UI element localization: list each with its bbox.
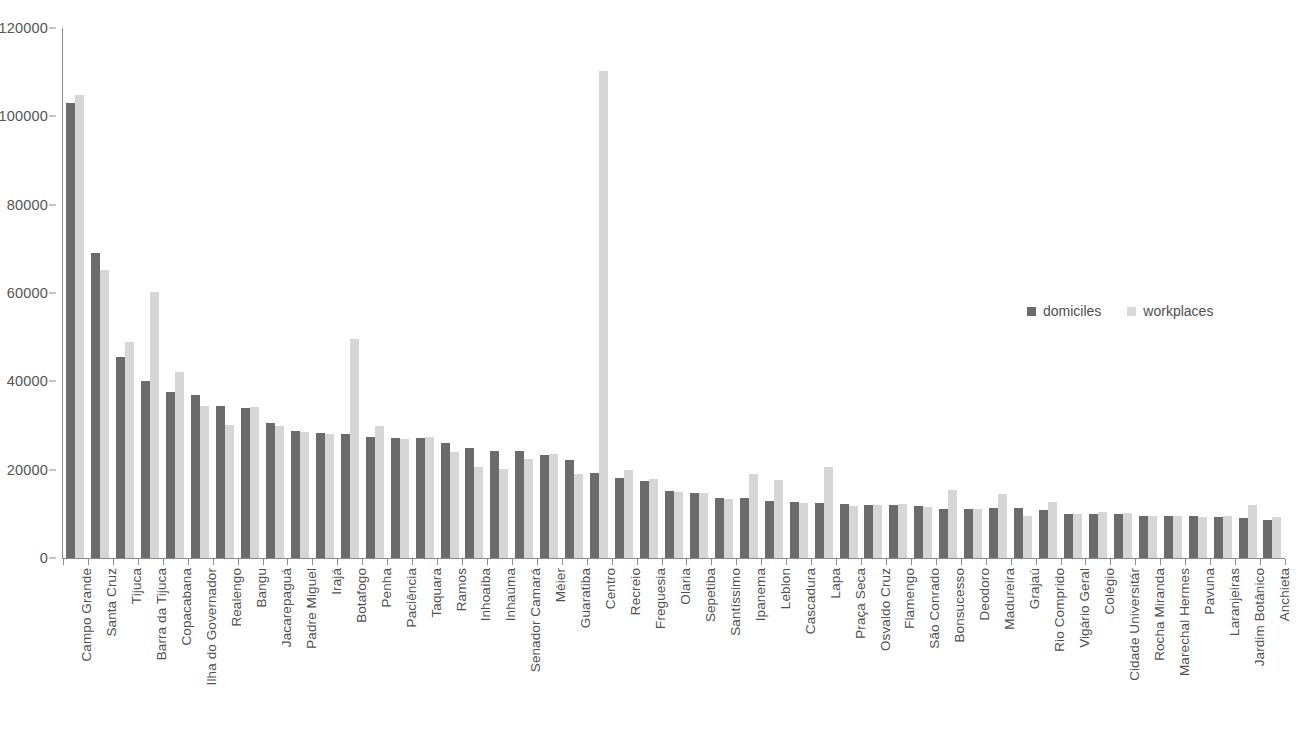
x-axis-label: Cascadura (804, 568, 818, 634)
x-axis-tick-mark (612, 559, 613, 565)
x-axis-label: Recreio (629, 568, 643, 615)
bar-group (686, 28, 711, 558)
bar-workplaces (599, 71, 608, 558)
x-axis-tick-mark (487, 559, 488, 565)
y-axis-tick-mark (49, 293, 56, 294)
x-axis-label: Grajaú (1028, 568, 1042, 609)
plot-area (63, 28, 1285, 558)
x-axis-label: Deodoro (978, 568, 992, 621)
bar-group (986, 28, 1011, 558)
bar-group (387, 28, 412, 558)
bar-group (63, 28, 88, 558)
y-axis-tick-mark (49, 204, 56, 205)
bar-workplaces (450, 452, 459, 558)
x-axis-label: Anchieta (1278, 568, 1292, 621)
x-axis-tick-mark (88, 559, 89, 565)
bar-workplaces (75, 95, 84, 558)
legend-item-workplaces[interactable]: workplaces (1127, 303, 1213, 319)
y-axis-tick-mark (49, 381, 56, 382)
bar-group (287, 28, 312, 558)
bar-domiciles (540, 455, 549, 558)
bar-group (437, 28, 462, 558)
bar-domiciles (465, 448, 474, 558)
x-axis-label: Olaria (679, 568, 693, 605)
bar-domiciles (1089, 514, 1098, 558)
x-axis-ticks (63, 559, 1285, 566)
bar-group (188, 28, 213, 558)
x-axis-label: Ramos (455, 568, 469, 611)
x-axis-label: Tijuca (130, 568, 144, 604)
bar-domiciles (864, 505, 873, 558)
x-axis-label: Madureira (1003, 568, 1017, 630)
bar-group (537, 28, 562, 558)
bar-group (312, 28, 337, 558)
y-axis-tick-mark (49, 469, 56, 470)
bar-workplaces (1248, 505, 1257, 558)
x-axis-tick-mark (1061, 559, 1062, 565)
legend-item-domiciles[interactable]: domiciles (1027, 303, 1101, 319)
x-axis-label: Osvaldo Cruz (879, 568, 893, 651)
bar-group (961, 28, 986, 558)
y-axis: 020000400006000080000100000120000 (0, 0, 62, 737)
x-axis-label: Praça Seca (854, 568, 868, 639)
bar-domiciles (690, 493, 699, 558)
bar-domiciles (715, 498, 724, 559)
bar-workplaces (873, 505, 882, 558)
x-axis-tick-mark (387, 559, 388, 565)
x-axis-tick-mark (936, 559, 937, 565)
bar-workplaces (524, 459, 533, 558)
bar-chart: 020000400006000080000100000120000 Campo … (0, 0, 1300, 737)
bar-workplaces (824, 467, 833, 558)
bar-workplaces (425, 437, 434, 558)
x-axis-label: Penha (380, 568, 394, 608)
x-axis-label: Ipanema (754, 568, 768, 621)
x-axis-label: Senador Camará (529, 568, 543, 672)
y-axis-tick-label: 20000 (7, 462, 48, 478)
x-axis-label: Bangu (255, 568, 269, 608)
x-axis-tick-mark (1135, 559, 1136, 565)
bar-domiciles (1014, 508, 1023, 558)
x-axis-tick-mark (537, 559, 538, 565)
bar-domiciles (1064, 514, 1073, 558)
x-axis-label: Sepetiba (704, 568, 718, 622)
x-axis-label: Padre Miguel (305, 568, 319, 649)
bar-workplaces (699, 493, 708, 558)
bar-domiciles (1114, 514, 1123, 558)
x-axis-tick-mark (911, 559, 912, 565)
x-axis-label: Jacarepaguá (280, 568, 294, 647)
bar-domiciles (91, 253, 100, 558)
bar-workplaces (774, 480, 783, 558)
bar-workplaces (100, 270, 109, 558)
x-axis-label: São Conrado (928, 568, 942, 649)
x-axis-label: Rocha Miranda (1153, 568, 1167, 661)
y-axis-tick-label: 100000 (0, 108, 48, 124)
bar-domiciles (840, 504, 849, 558)
bar-workplaces (325, 434, 334, 558)
bar-workplaces (1198, 517, 1207, 558)
bar-group (1085, 28, 1110, 558)
x-axis-tick-mark (412, 559, 413, 565)
bar-group (911, 28, 936, 558)
legend-swatch-workplaces-icon (1127, 307, 1136, 316)
bar-domiciles (989, 508, 998, 558)
bar-domiciles (939, 509, 948, 558)
bar-workplaces (125, 342, 134, 558)
x-axis-labels: Campo GrandeSanta CruzTijucaBarra da Tij… (63, 568, 1285, 733)
bar-group (412, 28, 437, 558)
bar-group (88, 28, 113, 558)
legend-swatch-domiciles-icon (1027, 307, 1036, 316)
x-axis-label: Laranjeiras (1228, 568, 1242, 636)
bar-domiciles (565, 460, 574, 558)
bar-group (163, 28, 188, 558)
bar-workplaces (624, 470, 633, 558)
bar-workplaces (400, 439, 409, 558)
bar-workplaces (749, 474, 758, 558)
bar-workplaces (150, 292, 159, 558)
x-axis-label: Cidade Universitár (1128, 568, 1142, 681)
x-axis-tick-mark (113, 559, 114, 565)
bar-group (512, 28, 537, 558)
bar-domiciles (740, 498, 749, 558)
bar-workplaces (898, 504, 907, 558)
bar-workplaces (1048, 502, 1057, 558)
bar-group (811, 28, 836, 558)
